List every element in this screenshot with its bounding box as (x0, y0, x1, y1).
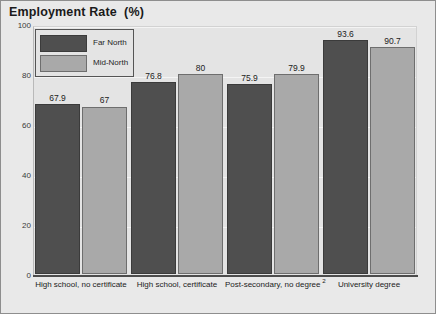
legend-item-mid-north: Mid-North (40, 54, 131, 72)
x-axis-category-label: High school, certificate (129, 281, 225, 290)
y-axis-tick-label: 80 (5, 72, 31, 80)
bar-value-label: 93.6 (337, 30, 354, 39)
bar-value-label: 90.7 (384, 37, 401, 46)
gridline (34, 27, 416, 28)
bar-mid-north: 80 (178, 74, 223, 274)
y-axis-tick-label: 20 (5, 222, 31, 230)
y-axis-tick-label: 100 (5, 22, 31, 30)
bar-value-label: 67.9 (49, 94, 66, 103)
legend-label-mid-north: Mid-North (93, 59, 128, 67)
x-axis-baseline (33, 275, 418, 277)
legend-item-far-north: Far North (40, 34, 131, 52)
bar-value-label: 79.9 (288, 64, 305, 73)
y-axis: 020406080100 (1, 1, 31, 314)
legend-label-far-north: Far North (93, 39, 127, 47)
chart-figure: Employment Rate (%) 020406080100 Far Nor… (0, 0, 436, 314)
y-axis-tick-label: 60 (5, 122, 31, 130)
bar-far-north: 76.8 (131, 82, 176, 274)
bar-value-label: 80 (196, 64, 205, 73)
bar-far-north: 67.9 (35, 104, 80, 274)
y-axis-tick-label: 40 (5, 172, 31, 180)
bar-value-label: 75.9 (241, 74, 258, 83)
legend-swatch-mid-north (40, 55, 87, 72)
bar-value-label: 76.8 (145, 72, 162, 81)
bar-mid-north: 90.7 (370, 47, 415, 274)
x-axis-category-label: Post-secondary, no degree 2 (225, 281, 321, 290)
x-axis-category-label: University degree (321, 281, 417, 290)
bar-mid-north: 79.9 (274, 74, 319, 274)
chart-legend: Far North Mid-North (35, 29, 134, 77)
legend-swatch-far-north (40, 35, 87, 52)
bar-far-north: 93.6 (323, 40, 368, 274)
bar-far-north: 75.9 (227, 84, 272, 274)
y-axis-tick-label: 0 (5, 272, 31, 280)
x-axis-category-label: High school, no certificate (33, 281, 129, 290)
bar-mid-north: 67 (82, 107, 127, 275)
bar-value-label: 67 (100, 96, 109, 105)
